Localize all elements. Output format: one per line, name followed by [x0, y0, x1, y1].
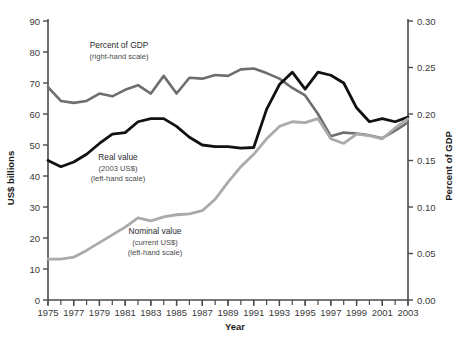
y-axis-right-tick-label: 0.30 — [417, 16, 436, 27]
annotation-subtitle: (current US$) — [132, 238, 178, 247]
y-axis-right: 0.000.050.100.150.200.250.30 — [408, 16, 436, 306]
y-axis-left-tick-label: 20 — [29, 233, 40, 244]
y-axis-left-tick-label: 30 — [29, 202, 40, 213]
y-axis-right-tick-label: 0.00 — [417, 295, 436, 306]
annotation-subtitle: (right-hand scale) — [89, 52, 149, 61]
y-axis-left-tick-label: 50 — [29, 140, 40, 151]
x-axis-tick-label: 1981 — [115, 307, 136, 318]
x-axis-tick-label: 2001 — [372, 307, 393, 318]
x-axis-tick-label: 1999 — [346, 307, 367, 318]
x-axis: 1975197719791981198319851987198919911993… — [37, 300, 418, 318]
y-axis-left-tick-label: 40 — [29, 171, 40, 182]
annotation-scale-note: (left-hand scale) — [91, 174, 146, 183]
y-axis-left-tick-label: 90 — [29, 16, 40, 27]
y-axis-left-tick-label: 10 — [29, 264, 40, 275]
annotation-title: Nominal value — [128, 226, 181, 236]
y-axis-right-tick-label: 0.10 — [417, 202, 436, 213]
x-axis-tick-label: 2003 — [397, 307, 418, 318]
chart-container: 0102030405060708090 0.000.050.100.150.20… — [0, 0, 462, 342]
y-axis-left-tick-label: 70 — [29, 78, 40, 89]
annotation-scale-note: (left-hand scale) — [128, 248, 183, 257]
y-axis-right-tick-label: 0.20 — [417, 109, 436, 120]
y-axis-right-tick-label: 0.05 — [417, 248, 436, 259]
x-axis-tick-label: 1985 — [166, 307, 187, 318]
annotation-title: Real value — [98, 152, 138, 162]
series-line-nominal-value-current-us — [48, 119, 408, 259]
annotation-nominal-value: Nominal value(current US$)(left-hand sca… — [128, 226, 183, 257]
x-axis-title: Year — [225, 321, 245, 332]
y-axis-left-tick-label: 80 — [29, 47, 40, 58]
x-axis-tick-label: 1989 — [217, 307, 238, 318]
annotation-real-value: Real value(2003 US$)(left-hand scale) — [91, 152, 146, 183]
y-axis-left: 0102030405060708090 — [29, 16, 48, 306]
x-axis-tick-label: 1975 — [37, 307, 58, 318]
y-axis-right-tick-label: 0.15 — [417, 155, 436, 166]
x-axis-tick-label: 1991 — [243, 307, 264, 318]
y-axis-left-tick-label: 60 — [29, 109, 40, 120]
annotation-pct-gdp: Percent of GDP(right-hand scale) — [89, 40, 149, 61]
x-axis-tick-label: 1983 — [140, 307, 161, 318]
x-axis-tick-label: 1993 — [269, 307, 290, 318]
y-axis-right-tick-label: 0.25 — [417, 62, 436, 73]
y-axis-left-tick-label: 0 — [35, 295, 40, 306]
x-axis-tick-label: 1995 — [295, 307, 316, 318]
x-axis-tick-label: 1979 — [89, 307, 110, 318]
x-axis-tick-label: 1997 — [320, 307, 341, 318]
series-annotations: Percent of GDP(right-hand scale)Real val… — [89, 40, 182, 257]
x-axis-tick-label: 1987 — [192, 307, 213, 318]
annotation-subtitle: (2003 US$) — [99, 164, 138, 173]
x-axis-tick-label: 1977 — [63, 307, 84, 318]
line-chart: 0102030405060708090 0.000.050.100.150.20… — [0, 0, 462, 342]
y-axis-right-title: Percent of GDP — [443, 130, 454, 200]
annotation-title: Percent of GDP — [90, 40, 149, 50]
y-axis-left-title: US$ billions — [5, 151, 16, 205]
